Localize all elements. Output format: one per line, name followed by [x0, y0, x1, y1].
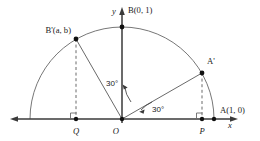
y-axis-top-arrowhead: [119, 7, 125, 15]
point-Q: [74, 117, 78, 121]
geometry-figure: x y B(0, 1) A(1, 0) A' B'(a, b) O P Q 30…: [0, 0, 260, 141]
point-label-P: P: [198, 126, 205, 136]
point-label-Q: Q: [73, 126, 80, 136]
point-label-B: B(0, 1): [128, 5, 152, 15]
point-O: [120, 117, 124, 121]
point-label-A: A(1, 0): [220, 105, 245, 115]
point-P: [200, 117, 204, 121]
angle-arrowhead-AOAprime: [123, 85, 128, 90]
point-A: [212, 117, 216, 121]
angle-arrowhead-BOBprime: [139, 110, 144, 114]
y-axis-label: y: [111, 6, 116, 16]
x-axis-left-arrowhead: [10, 116, 18, 122]
point-B: [120, 25, 125, 30]
point-label-A-prime: A': [207, 56, 215, 66]
point-A-prime: [200, 71, 205, 76]
point-label-B-prime: B'(a, b): [46, 25, 72, 35]
angle-arc-BOBprime: [141, 102, 152, 110]
x-axis-label: x: [227, 120, 232, 130]
angle-label-AOAprime: 30°: [152, 105, 164, 114]
point-label-O: O: [113, 126, 119, 136]
point-B-prime: [74, 37, 79, 42]
figure-canvas: x y B(0, 1) A(1, 0) A' B'(a, b) O P Q 30…: [0, 0, 260, 141]
angle-label-BOBprime: 30°: [106, 79, 118, 88]
